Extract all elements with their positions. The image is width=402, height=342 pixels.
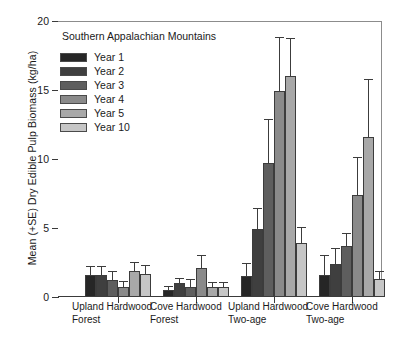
- bar-item[interactable]: [296, 21, 307, 297]
- legend-swatch-icon: [60, 81, 87, 90]
- bar-rect[interactable]: [252, 229, 263, 297]
- bar-item[interactable]: [174, 21, 185, 297]
- bar-item[interactable]: [207, 21, 218, 297]
- error-bar: [268, 120, 269, 163]
- error-bar-cap: [130, 262, 139, 263]
- bar-rect[interactable]: [118, 287, 129, 297]
- bar-rect[interactable]: [140, 274, 151, 297]
- error-bar-cap: [186, 279, 195, 280]
- bar-item[interactable]: [85, 21, 96, 297]
- bar-group: [241, 21, 307, 297]
- legend-swatch-icon: [60, 109, 87, 118]
- bar-item[interactable]: [241, 21, 252, 297]
- error-bar: [190, 280, 191, 288]
- error-bar: [90, 267, 91, 275]
- x-axis-group-label-line: Two-age: [306, 314, 378, 327]
- bar-rect[interactable]: [274, 91, 285, 297]
- bar-group: [85, 21, 151, 297]
- bar-item[interactable]: [129, 21, 140, 297]
- legend-swatch-icon: [60, 53, 87, 62]
- error-bar: [379, 272, 380, 279]
- bar-rect[interactable]: [296, 243, 307, 297]
- error-bar-cap: [175, 278, 184, 279]
- error-bar: [112, 272, 113, 280]
- bar-item[interactable]: [196, 21, 207, 297]
- figure-canvas: Mean (+SE) Dry Edible Pulp Biomass (kg/h…: [0, 0, 402, 342]
- y-axis-tick-label: 0: [43, 292, 49, 302]
- error-bar-cap: [353, 157, 362, 158]
- bar-rect[interactable]: [319, 275, 330, 297]
- bar-item[interactable]: [352, 21, 363, 297]
- x-axis-group-label: Cove HardwoodTwo-age: [306, 301, 378, 326]
- x-axis-group-label-line: Cove Hardwood: [150, 301, 222, 314]
- error-bar: [346, 234, 347, 246]
- bar-rect[interactable]: [363, 137, 374, 297]
- error-bar-cap: [219, 282, 228, 283]
- error-bar-cap: [375, 271, 384, 272]
- error-bar-cap: [342, 233, 351, 234]
- bar-rect[interactable]: [218, 287, 229, 297]
- error-bar: [145, 266, 146, 274]
- error-bar-cap: [286, 38, 295, 39]
- bar-rect[interactable]: [85, 275, 96, 297]
- error-bar: [257, 209, 258, 230]
- bar-rect[interactable]: [341, 246, 352, 297]
- bar-rect[interactable]: [107, 280, 118, 297]
- bar-item[interactable]: [363, 21, 374, 297]
- bar-rect[interactable]: [174, 283, 185, 297]
- error-bar-cap: [242, 263, 251, 264]
- bar-item[interactable]: [285, 21, 296, 297]
- bar-item[interactable]: [341, 21, 352, 297]
- bar-item[interactable]: [252, 21, 263, 297]
- legend-swatch-icon: [60, 95, 87, 104]
- error-bar: [201, 256, 202, 268]
- error-bar: [301, 228, 302, 243]
- legend-swatch-icon: [60, 123, 87, 132]
- bar-item[interactable]: [263, 21, 274, 297]
- bar-item[interactable]: [274, 21, 285, 297]
- x-axis-group-label-line: Forest: [150, 314, 222, 327]
- bar-rect[interactable]: [263, 163, 274, 297]
- bar-item[interactable]: [185, 21, 196, 297]
- bar-rect[interactable]: [352, 195, 363, 297]
- x-axis-group-label: Upland HardwoodTwo-age: [228, 301, 308, 326]
- bar-item[interactable]: [330, 21, 341, 297]
- x-axis-group-label-line: Upland Hardwood: [72, 301, 152, 314]
- bar-item[interactable]: [118, 21, 129, 297]
- error-bar: [290, 39, 291, 76]
- error-bar-cap: [164, 286, 173, 287]
- legend-swatch-icon: [60, 67, 87, 76]
- error-bar-cap: [119, 281, 128, 282]
- error-bar: [279, 38, 280, 92]
- bar-item[interactable]: [107, 21, 118, 297]
- bar-rect[interactable]: [285, 76, 296, 297]
- x-axis-group-label: Cove HardwoodForest: [150, 301, 222, 326]
- error-bar: [101, 267, 102, 275]
- error-bar-cap: [253, 208, 262, 209]
- bar-rect[interactable]: [330, 264, 341, 297]
- error-bar-cap: [86, 266, 95, 267]
- bar-rect[interactable]: [196, 268, 207, 297]
- bar-rect[interactable]: [129, 271, 140, 297]
- bar-rect[interactable]: [163, 290, 174, 297]
- bar-item[interactable]: [319, 21, 330, 297]
- error-bar: [246, 264, 247, 276]
- error-bar-cap: [275, 37, 284, 38]
- error-bar: [134, 263, 135, 271]
- y-axis-tick-label: 20: [37, 16, 49, 26]
- error-bar-cap: [297, 227, 306, 228]
- bar-rect[interactable]: [96, 275, 107, 297]
- error-bar-cap: [197, 255, 206, 256]
- error-bar: [324, 256, 325, 275]
- bar-rect[interactable]: [241, 276, 252, 297]
- bar-item[interactable]: [96, 21, 107, 297]
- x-axis-group-label-line: Cove Hardwood: [306, 301, 378, 314]
- bar-rect[interactable]: [185, 287, 196, 297]
- y-axis-tick-label: 5: [43, 223, 49, 233]
- bar-rect[interactable]: [374, 279, 385, 297]
- bar-item[interactable]: [140, 21, 151, 297]
- bar-item[interactable]: [374, 21, 385, 297]
- bar-item[interactable]: [163, 21, 174, 297]
- bar-item[interactable]: [218, 21, 229, 297]
- bar-rect[interactable]: [207, 287, 218, 297]
